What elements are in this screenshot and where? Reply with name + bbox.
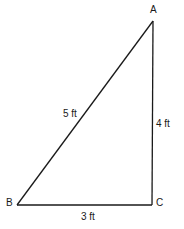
vertex-c-label: C xyxy=(156,198,163,208)
triangle-shape xyxy=(0,0,184,229)
vertex-b-label: B xyxy=(6,198,13,208)
side-ac xyxy=(152,21,153,205)
triangle-diagram: A B C 5 ft 4 ft 3 ft xyxy=(0,0,184,229)
side-ac-label: 4 ft xyxy=(156,119,170,129)
vertex-a-label: A xyxy=(150,5,157,15)
side-ab xyxy=(17,21,153,205)
side-bc-label: 3 ft xyxy=(81,212,95,222)
side-ab-label: 5 ft xyxy=(63,109,77,119)
